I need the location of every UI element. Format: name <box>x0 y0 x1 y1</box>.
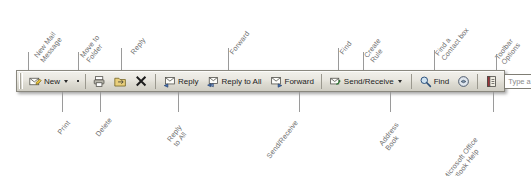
find-button-label: Find <box>434 77 450 86</box>
reply-button-label: Reply <box>178 77 198 86</box>
reply-icon <box>163 75 176 88</box>
address-book-button[interactable] <box>481 71 502 91</box>
find-icon <box>419 75 432 88</box>
toolbar-dot-separator <box>77 80 79 82</box>
send-receive-icon <box>329 75 342 88</box>
create-rule-icon <box>457 75 470 88</box>
callout-label-new-mail-message: New Mail Message <box>33 31 65 65</box>
create-rule-button[interactable] <box>453 71 474 91</box>
callout-label-outlook-help: Microsoft Office Outlook Help <box>442 136 487 176</box>
find-a-contact-input[interactable]: Type a contact to find <box>505 77 531 86</box>
leader-line-reply-to-all <box>178 92 179 112</box>
send-receive-button-label: Send/Receive <box>344 77 394 86</box>
callout-label-address-book: Address Book <box>378 121 408 153</box>
leader-line-address-book <box>390 92 391 112</box>
send-receive-dropdown-arrow-icon[interactable] <box>398 80 402 83</box>
callout-label-find-a-contact-box: Find a Contact box <box>434 21 472 62</box>
outlook-standard-toolbar[interactable]: New <box>16 70 505 92</box>
forward-icon <box>270 75 283 88</box>
callout-label-move-to-folder: Move to Folder <box>79 34 108 65</box>
toolbar-separator-5 <box>477 74 478 89</box>
send-receive-button[interactable]: Send/Receive <box>325 71 408 91</box>
toolbar-grip[interactable] <box>19 73 23 89</box>
leader-line-create-rule <box>363 52 364 70</box>
callout-label-find: Find <box>338 40 353 57</box>
new-mail-message-button[interactable]: New <box>25 71 74 91</box>
callout-label-reply: Reply <box>129 36 147 56</box>
callout-label-send-receive: Send/Receive <box>265 119 300 160</box>
reply-to-all-button[interactable]: Reply to All <box>202 71 265 91</box>
move-to-folder-button[interactable] <box>110 71 131 91</box>
print-icon <box>93 75 106 88</box>
delete-icon <box>135 75 148 88</box>
callout-label-forward: Forward <box>228 30 251 57</box>
new-mail-message-icon <box>29 75 42 88</box>
reply-button[interactable]: Reply <box>159 71 202 91</box>
callout-label-print: Print <box>56 119 72 136</box>
leader-line-toolbar-options <box>496 54 497 70</box>
callout-label-reply-to-all: Reply to All <box>166 124 191 149</box>
new-button-label: New <box>44 77 60 86</box>
callout-label-toolbar-options: Toolbar Options <box>494 36 523 66</box>
reply-to-all-icon <box>206 75 219 88</box>
leader-line-outlook-help <box>493 92 494 112</box>
leader-line-new-mail-message <box>28 52 29 70</box>
toolbar-separator-1 <box>85 74 86 89</box>
leader-line-find <box>338 48 339 70</box>
print-button[interactable] <box>89 71 110 91</box>
toolbar-annotation-diagram: New Mail Message Move to Folder Reply Fo… <box>0 0 531 176</box>
leader-line-delete <box>100 92 101 112</box>
toolbar-separator-3 <box>321 74 322 89</box>
leader-line-send-receive <box>299 92 300 112</box>
find-button[interactable]: Find <box>415 71 454 91</box>
callout-label-create-rule: Create Rule <box>363 37 390 65</box>
toolbar-separator-4 <box>411 74 412 89</box>
toolbar-separator-2 <box>155 74 156 89</box>
delete-button[interactable] <box>131 71 152 91</box>
leader-line-forward <box>228 48 229 70</box>
forward-button[interactable]: Forward <box>266 71 318 91</box>
address-book-icon <box>485 75 498 88</box>
callout-label-delete: Delete <box>94 116 114 138</box>
forward-button-label: Forward <box>285 77 314 86</box>
leader-line-reply <box>121 48 122 70</box>
leader-line-print <box>62 92 63 112</box>
find-a-contact-combobox[interactable]: Type a contact to find <box>504 74 531 89</box>
leader-line-move-to-folder <box>78 52 79 70</box>
move-to-folder-icon <box>114 75 127 88</box>
reply-to-all-button-label: Reply to All <box>221 77 261 86</box>
new-dropdown-arrow-icon[interactable] <box>64 80 68 83</box>
leader-line-find-a-contact-box <box>434 50 435 70</box>
